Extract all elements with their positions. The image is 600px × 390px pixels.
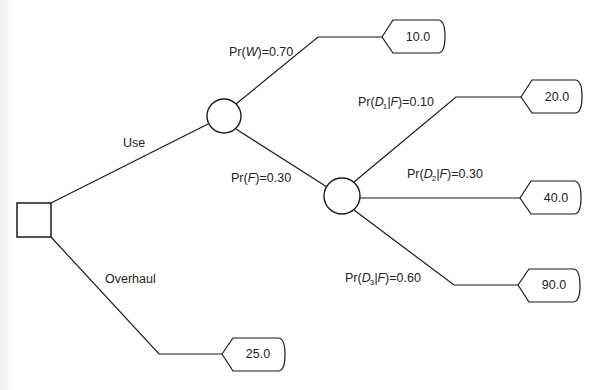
branch-overhaul [51,237,222,354]
payoff-d2: 40.0 [534,192,578,205]
prob-suffix: )=0.30 [447,167,483,181]
prob-suffix: )=0.30 [255,171,291,185]
prob-prefix: Pr( [229,45,246,59]
prob-prefix: Pr( [358,95,375,109]
prob-event: W [246,45,258,59]
prob-label-f: Pr(F)=0.30 [231,172,291,185]
label-use-text: Use [123,136,145,150]
payoff-overhaul: 25.0 [236,348,280,361]
decision-node [17,203,51,237]
chance-node-2 [324,178,360,214]
prob-prefix: Pr( [345,271,362,285]
prob-label-d3: Pr(D3|F)=0.60 [345,272,421,287]
prob-prefix: Pr( [407,167,424,181]
label-overhaul-text: Overhaul [105,272,156,286]
prob-suffix: )=0.10 [398,95,434,109]
payoff-w: 10.0 [396,31,440,44]
prob-suffix: )=0.60 [385,271,421,285]
label-use: Use [123,137,145,150]
prob-label-w: Pr(W)=0.70 [229,46,293,59]
prob-suffix: )=0.70 [257,45,293,59]
decision-tree-graphic [0,0,600,390]
prob-given: |F [436,167,447,181]
prob-prefix: Pr( [231,171,248,185]
label-overhaul: Overhaul [105,273,156,286]
prob-given: |F [374,271,385,285]
prob-label-d2: Pr(D2|F)=0.30 [407,168,483,183]
payoff-d3: 90.0 [532,279,576,292]
chance-node-1 [207,99,241,133]
payoff-d1: 20.0 [535,91,579,104]
prob-given: |F [387,95,398,109]
prob-label-d1: Pr(D1|F)=0.10 [358,96,434,111]
